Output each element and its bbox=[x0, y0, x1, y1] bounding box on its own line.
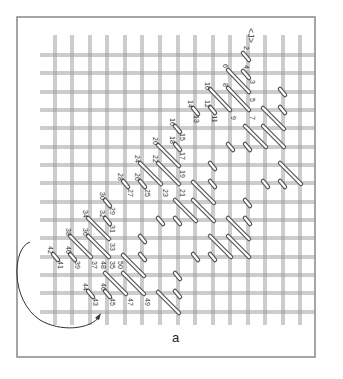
stitch-number-label: 2 bbox=[243, 46, 250, 50]
stitch-number-label: 43 bbox=[92, 298, 99, 306]
stitch-number-label: 30 bbox=[99, 192, 106, 200]
stitch-number-label: 42 bbox=[47, 246, 54, 254]
stitch-number-label: 21 bbox=[179, 189, 186, 197]
stitch-number-label: 10 bbox=[204, 82, 211, 90]
stitch-number-label: 32 bbox=[99, 210, 106, 218]
stitch-number-label: 38 bbox=[65, 228, 72, 236]
stitch-number-label: 13 bbox=[193, 115, 200, 123]
stitch-number-label: 36 bbox=[82, 228, 89, 236]
stitch-number-label: 16 bbox=[169, 118, 176, 126]
stitch-number-label: 11 bbox=[211, 115, 218, 122]
figure-caption: a bbox=[172, 330, 179, 345]
stitch-number-label: 40 bbox=[65, 246, 72, 254]
direction-marker: <J> bbox=[246, 28, 256, 43]
stitch-number-label: 31 bbox=[109, 225, 116, 233]
stitch-number-label: 9 bbox=[230, 116, 237, 120]
stitch-number-label: 28 bbox=[117, 173, 124, 181]
stitch-number-label: 44 bbox=[82, 283, 89, 291]
stitch-number-label: 26 bbox=[134, 173, 141, 181]
stitch-number-label: 50 bbox=[117, 261, 124, 269]
stitch-number-label: 34 bbox=[82, 210, 89, 218]
stitch-number-label: 7 bbox=[249, 116, 256, 120]
stitch-number-label: 23 bbox=[162, 189, 169, 197]
stitch-number-label: 4 bbox=[243, 65, 250, 69]
stitch-number-label: 25 bbox=[144, 189, 151, 197]
stitch-number-label: 35 bbox=[109, 261, 116, 269]
stitch-number-label: 49 bbox=[144, 298, 151, 306]
stitch-number-label: 24 bbox=[134, 155, 141, 163]
stitch-fill bbox=[210, 89, 230, 110]
diagram-frame bbox=[17, 17, 315, 357]
stitch-number-label: 46 bbox=[100, 283, 107, 291]
stitch-number-label: 27 bbox=[127, 189, 134, 197]
stitch-number-label: 3 bbox=[249, 80, 256, 84]
stitch-number-label: 17 bbox=[179, 152, 186, 160]
stitch-number-label: 6 bbox=[222, 64, 229, 68]
stitch-number-label: 47 bbox=[127, 298, 134, 306]
stitch-number-label: 20 bbox=[152, 137, 159, 145]
stitch-diagram: 2463810512149711131615182017222419262821… bbox=[0, 0, 343, 379]
stitch-number-label: 15 bbox=[179, 133, 186, 141]
stitch-number-label: 33 bbox=[109, 243, 116, 251]
stitch-number-label: 48 bbox=[100, 261, 107, 269]
stitch-number-label: 5 bbox=[249, 98, 256, 102]
stitch-number-label: 39 bbox=[74, 261, 81, 269]
stitch-number-label: 12 bbox=[204, 100, 211, 108]
stitch-number-label: 22 bbox=[152, 155, 159, 163]
stitch-number-label: 45 bbox=[109, 298, 116, 306]
stitch-number-label: 14 bbox=[187, 100, 194, 108]
stitch-number-label: 19 bbox=[179, 170, 186, 178]
stitch-number-label: 41 bbox=[57, 261, 64, 269]
stitch-number-label: 29 bbox=[109, 207, 116, 215]
stitch-number-label: 37 bbox=[91, 261, 98, 269]
stitch-number-label: 8 bbox=[222, 83, 229, 87]
stitch-number-label: 18 bbox=[169, 136, 176, 144]
